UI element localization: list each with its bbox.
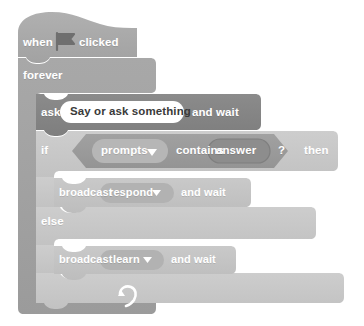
respond-dropdown[interactable] <box>100 183 174 203</box>
prompts-dropdown[interactable] <box>92 139 168 163</box>
learn-dropdown[interactable] <box>100 250 164 270</box>
forever-hit[interactable] <box>18 58 156 94</box>
else-bar-hit[interactable] <box>36 207 316 239</box>
ask-text-input[interactable] <box>60 101 184 123</box>
when-flag-clicked-hit[interactable] <box>18 12 138 58</box>
answer-reporter[interactable] <box>208 139 270 163</box>
block-editor-canvas: when clicked forever ask Say or ask some… <box>0 0 364 326</box>
loop-arrow-hit[interactable] <box>110 286 142 310</box>
